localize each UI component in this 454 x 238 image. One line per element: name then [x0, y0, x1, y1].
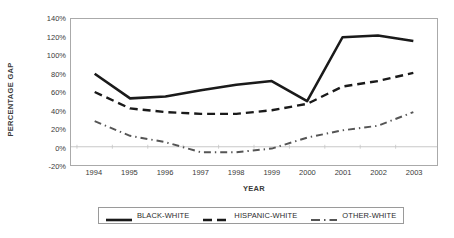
x-tick-label: 1996: [157, 168, 174, 177]
x-tick-label: 1999: [263, 168, 280, 177]
x-tick-label: 2003: [406, 168, 423, 177]
x-tick-label: 2000: [299, 168, 316, 177]
y-tick-label: 0%: [22, 143, 66, 152]
x-tick-label: 2001: [335, 168, 352, 177]
plot-area: [70, 18, 438, 166]
legend-label: HISPANIC-WHITE: [234, 211, 297, 220]
legend-label: BLACK-WHITE: [137, 211, 189, 220]
legend-swatch-icon: [106, 211, 132, 221]
x-tick-label: 1995: [121, 168, 138, 177]
series-line-black-white: [95, 35, 414, 101]
x-tick-label: 2002: [370, 168, 387, 177]
chart-legend: BLACK-WHITEHISPANIC-WHITEOTHER-WHITE: [98, 207, 404, 224]
x-tick-label: 1997: [192, 168, 209, 177]
legend-swatch-icon: [311, 211, 337, 221]
y-tick-label: 40%: [22, 106, 66, 115]
y-tick-label: 100%: [22, 51, 66, 60]
x-axis-title: YEAR: [70, 184, 438, 193]
y-axis-title: PERCENTAGE GAP: [1, 36, 19, 162]
legend-item[interactable]: OTHER-WHITE: [311, 211, 396, 221]
legend-item[interactable]: HISPANIC-WHITE: [203, 211, 297, 221]
x-tick-label: 1994: [85, 168, 102, 177]
legend-swatch-icon: [203, 211, 229, 221]
plot-lines: [71, 19, 437, 165]
series-line-hispanic-white: [95, 73, 414, 114]
y-axis-title-label: PERCENTAGE GAP: [6, 62, 15, 136]
legend-item[interactable]: BLACK-WHITE: [106, 211, 189, 221]
y-tick-label: 60%: [22, 88, 66, 97]
y-tick-label: 140%: [22, 14, 66, 23]
x-tick-label: 1998: [228, 168, 245, 177]
y-axis-tick-labels: -20%0%20%40%60%80%100%120%140%: [22, 14, 66, 168]
legend-label: OTHER-WHITE: [342, 211, 396, 220]
y-tick-label: -20%: [22, 162, 66, 171]
x-axis-tick-labels: 1994199519961997199819992000200120022003: [70, 168, 438, 182]
y-tick-label: 80%: [22, 69, 66, 78]
y-tick-label: 120%: [22, 32, 66, 41]
line-chart-figure: PERCENTAGE GAP -20%0%20%40%60%80%100%120…: [0, 0, 454, 238]
y-tick-label: 20%: [22, 125, 66, 134]
